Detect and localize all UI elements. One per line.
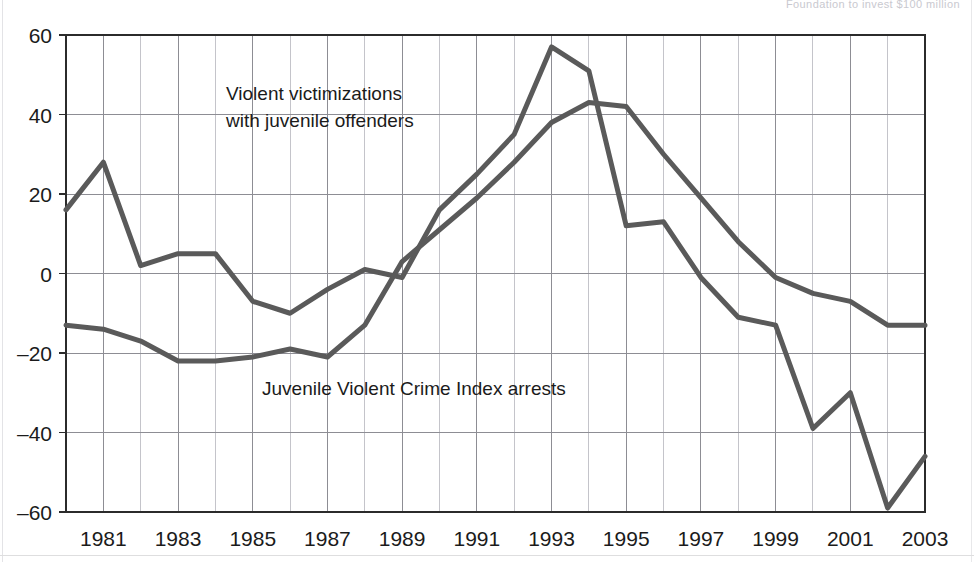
y-tick-label-neg20: –20 — [17, 342, 52, 365]
y-tick-label-20: 20 — [29, 183, 52, 206]
y-tick-label-neg60: –60 — [17, 501, 52, 524]
x-tick-label-1993: 1993 — [528, 527, 575, 550]
x-tick-label-1985: 1985 — [229, 527, 276, 550]
chart-gridlines — [66, 35, 925, 512]
chart-tick-labels: 6040200–20–40–60198119831985198719891991… — [17, 24, 948, 550]
y-tick-label-40: 40 — [29, 104, 52, 127]
chart-series-layer — [66, 47, 925, 508]
x-tick-label-1987: 1987 — [304, 527, 351, 550]
line-chart: 6040200–20–40–60198119831985198719891991… — [0, 0, 974, 562]
y-tick-label-0: 0 — [40, 263, 52, 286]
x-tick-label-1991: 1991 — [453, 527, 500, 550]
violent-victimizations-label-line-1: Violent victimizations — [226, 83, 402, 104]
x-tick-label-1989: 1989 — [379, 527, 426, 550]
violent-victimizations-label-line-2: with juvenile offenders — [225, 110, 414, 131]
y-tick-label-neg40: –40 — [17, 422, 52, 445]
x-tick-label-1997: 1997 — [678, 527, 725, 550]
x-tick-label-1995: 1995 — [603, 527, 650, 550]
juvenile-arrests-label-line-1: Juvenile Violent Crime Index arrests — [262, 378, 566, 399]
x-tick-label-1981: 1981 — [80, 527, 127, 550]
series-line-1 — [66, 47, 925, 508]
series-line-2 — [66, 103, 925, 361]
x-tick-label-1983: 1983 — [155, 527, 202, 550]
x-tick-label-2003: 2003 — [902, 527, 949, 550]
chart-page: Foundation to invest $100 million 604020… — [0, 0, 974, 562]
x-tick-label-2001: 2001 — [827, 527, 874, 550]
x-tick-label-1999: 1999 — [752, 527, 799, 550]
y-tick-label-60: 60 — [29, 24, 52, 47]
